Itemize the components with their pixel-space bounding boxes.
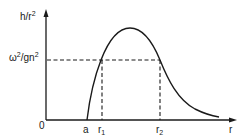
x-tick-r1: r1 [98,125,105,136]
y-axis-arrow-icon [44,9,49,17]
x-axis-arrow-icon [229,118,237,123]
origin-label: 0 [39,121,45,131]
x-axis-label: r [229,125,232,135]
x-tick-r2: r2 [156,125,163,136]
y-axis-label: h/r2 [20,10,36,22]
x-tick-a: a [83,125,89,135]
h-over-r2-curve [87,28,219,120]
diagram-canvas [0,0,242,138]
level-label: ω2/gn2 [9,51,39,63]
